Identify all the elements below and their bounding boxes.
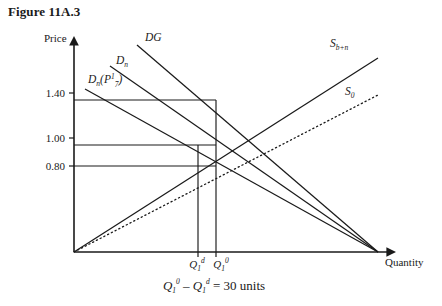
curve-dn — [110, 66, 378, 252]
label-supply-0: S0 — [345, 85, 355, 100]
x-axis-label: Quantity — [385, 256, 424, 268]
y-axis-label: Price — [44, 32, 67, 44]
label-supply-bn: Sb+n — [330, 37, 349, 52]
label-q1-demand: Q1d — [189, 256, 205, 273]
label-dn-p7: Dn(P17) — [87, 72, 122, 89]
curve-supply-0 — [74, 95, 378, 252]
economics-diagram: 1.40 1.00 0.80 Q1d Q10 Price Quantity DG… — [0, 0, 442, 306]
tick-label-price-080: 0.80 — [46, 160, 66, 172]
figure-equation: Q10 – Q1d = 30 units — [163, 277, 265, 295]
curve-supply-bn — [74, 58, 378, 252]
label-dn: Dn — [115, 54, 128, 69]
figure-container: Figure 11A.3 1.40 — [0, 0, 442, 306]
tick-label-price-100: 1.00 — [46, 132, 66, 144]
label-q1-zero: Q10 — [213, 256, 229, 273]
label-dg: DG — [144, 31, 162, 43]
curve-dg — [137, 45, 378, 252]
tick-label-price-140: 1.40 — [46, 87, 66, 99]
